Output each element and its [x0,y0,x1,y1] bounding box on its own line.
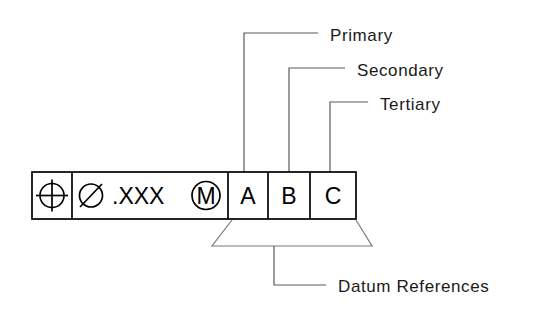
callout-label-tertiary: Tertiary [380,95,441,114]
datum-secondary-text: B [281,183,296,209]
datum-references-leader [274,246,326,285]
callout-label-datum-references: Datum References [338,277,489,296]
diameter-symbol [80,184,103,207]
technical-drawing-canvas: Primary Secondary Tertiary .XXX M A B [0,0,555,310]
callout-label-primary: Primary [330,26,393,45]
primary-leader [244,33,318,172]
datum-references-bracket [212,220,372,246]
datum-tertiary-text: C [325,183,342,209]
mmc-modifier-letter: M [196,183,215,209]
feature-control-frame: .XXX M A B C [32,172,356,219]
tertiary-leader [330,102,368,172]
tolerance-value-text: .XXX [112,183,164,209]
datum-primary-text: A [240,183,256,209]
mmc-modifier-symbol: M [192,182,220,210]
position-symbol [36,180,68,212]
callout-label-secondary: Secondary [357,61,444,80]
secondary-leader [289,68,345,172]
